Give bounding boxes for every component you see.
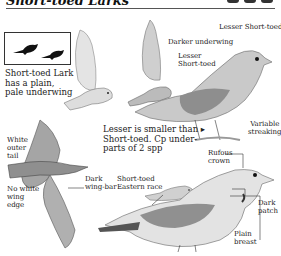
label-line: wing (7, 193, 39, 201)
label-line: edge (7, 201, 39, 209)
label-line: Short-toed (178, 60, 216, 68)
label-line: Plain (234, 230, 257, 238)
label-variable-streaking: Variable streaking (248, 120, 281, 136)
label-line: Short-toed (117, 175, 163, 183)
label-line: Rufous (208, 149, 233, 157)
label-darker-underwing: Darker underwing (168, 38, 233, 46)
label-line: streaking (248, 128, 281, 136)
label-line: crown (208, 157, 233, 165)
label-lesser-short-toed-top: Lesser Short-toed (219, 23, 281, 31)
lesser-short-toed-flight-illustration (128, 20, 171, 106)
label-lesser-short-toed: Lesser Short-toed (178, 52, 216, 68)
label-line: wing-bar (85, 183, 117, 191)
label-plain-breast: Plain breast (234, 230, 257, 246)
label-line: No white (7, 185, 39, 193)
label-white-outer-tail: White outer tail (7, 136, 28, 160)
label-line: outer (7, 144, 28, 152)
label-short-toed-eastern-race: Short-toed Eastern race (117, 175, 163, 191)
caption-line: pale underwing (5, 88, 73, 98)
label-dark-wing-bar: Dark wing-bar (85, 175, 117, 191)
label-line: White (7, 136, 28, 144)
label-line: Variable (248, 120, 281, 128)
note-line: parts of 2 spp (103, 144, 205, 154)
label-no-white-wing-edge: No white wing edge (7, 185, 39, 209)
label-line: tail (7, 152, 28, 160)
label-rufous-crown: Rufous crown (208, 149, 233, 165)
label-line: Dark (85, 175, 117, 183)
label-line: Lesser (178, 52, 216, 60)
label-line: Dark (258, 199, 278, 207)
label-line: Eastern race (117, 183, 163, 191)
label-line: patch (258, 207, 278, 215)
caption-short-toed: Short-toed Lark has a plain, pale underw… (5, 69, 73, 98)
label-line: breast (234, 238, 257, 246)
note-lesser-smaller: Lesser is smaller than ▸ Short-toed. Cp … (103, 125, 205, 154)
label-dark-patch: Dark patch (258, 199, 278, 215)
